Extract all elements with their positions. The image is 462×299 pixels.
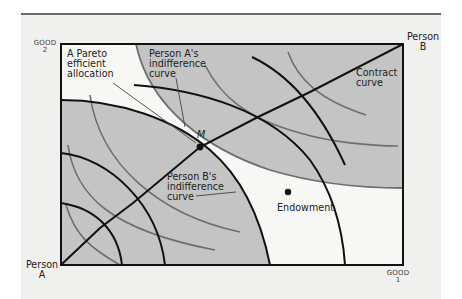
pareto-label-line3: allocation [67,69,114,79]
person-a-origin-label: Person A [22,260,62,280]
contract-curve-label: Contract curve [356,68,397,88]
point-m-marker [197,144,204,151]
pareto-allocation-label: A Pareto efficient allocation [67,49,114,79]
person-a-origin-line2: A [22,270,62,280]
person-b-curve-label: Person B's indifference curve [167,172,224,202]
x-axis-label: GOOD 1 [381,270,415,285]
person-a-curve-label: Person A's indifference curve [149,49,206,79]
person-b-origin-label: Person B [403,32,443,52]
person-b-origin-line2: B [403,42,443,52]
point-m-label: M [197,130,205,140]
person-b-curve-line3: curve [167,192,224,202]
person-a-curve-line3: curve [149,69,206,79]
y-axis-label: GOOD 2 [28,40,62,55]
point-m-text: M [197,129,205,140]
endowment-label: Endowment [277,203,334,213]
contract-curve-line2: curve [356,78,397,88]
endowment-marker [285,189,291,195]
x-axis-label-line2: 1 [381,277,415,284]
y-axis-label-line2: 2 [28,47,62,54]
endowment-text: Endowment [277,202,334,213]
